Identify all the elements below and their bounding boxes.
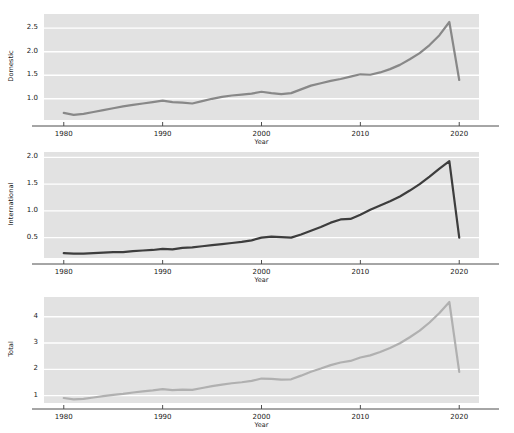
subplot-total: 123419801990200020102020YearTotal [0, 0, 514, 433]
x-tick-label: 1980 [44, 413, 84, 421]
x-tick-label: 2010 [340, 413, 380, 421]
x-tick-label: 1990 [143, 413, 183, 421]
y-axis-label: Total [7, 309, 15, 389]
x-tick-label: 2020 [439, 413, 479, 421]
y-tick-label: 1 [4, 391, 38, 399]
gridlines [44, 317, 479, 396]
x-axis-label: Year [222, 421, 302, 429]
figure-canvas: 1.01.52.02.519801990200020102020YearDome… [0, 0, 514, 433]
plot-vector-layer [0, 0, 514, 433]
x-tick-label: 2000 [242, 413, 282, 421]
